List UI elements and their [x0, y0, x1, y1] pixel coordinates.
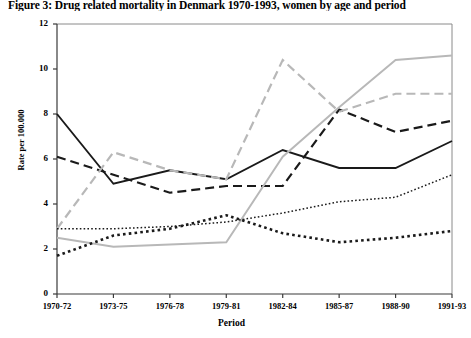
y-axis-title: Rate per 100.000 [16, 95, 26, 185]
y-tick-label: 0 [24, 288, 48, 298]
chart-series-lines [57, 56, 452, 256]
series-line-dashed-black [57, 110, 452, 193]
y-tick-label: 2 [24, 243, 48, 253]
y-tick-label: 8 [24, 108, 48, 118]
y-tick-label: 12 [24, 18, 48, 28]
series-line-dashed-gray [57, 60, 452, 229]
chart-axes [57, 24, 452, 294]
series-line-solid-black [57, 114, 452, 184]
y-tick-label: 6 [24, 153, 48, 163]
x-axis-title: Period [0, 318, 463, 328]
y-tick-label: 4 [24, 198, 48, 208]
series-line-dotted-coarse-black [57, 215, 452, 256]
x-tick-label: 1991-93 [417, 301, 471, 311]
y-tick-label: 10 [24, 63, 48, 73]
